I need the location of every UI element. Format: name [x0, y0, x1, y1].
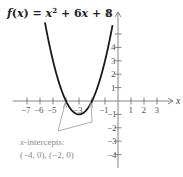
- annotation-label: x-intercepts:: [19, 137, 64, 147]
- y-tick-label: 3: [111, 56, 116, 66]
- graph-title: f(x) = x2 + 6x + 8: [6, 6, 113, 20]
- x-tick-label: 3: [155, 105, 160, 115]
- x-tick-label: −5: [47, 105, 57, 115]
- y-tick-label: −4: [107, 150, 117, 160]
- y-axis-label: y: [106, 6, 112, 17]
- x-tick-label: −6: [34, 105, 44, 115]
- y-tick-label: −1: [107, 109, 117, 119]
- x-tick-label: −7: [21, 105, 31, 115]
- y-tick-label: 1: [111, 83, 116, 93]
- y-tick-label: 2: [111, 69, 116, 79]
- pointer-line-left: [58, 104, 65, 131]
- y-tick-label: −3: [107, 136, 117, 146]
- y-tick-label: 4: [111, 42, 116, 52]
- function-graph: f(x) = x2 + 6x + 8 −7−6−5−3−11234321−1−2…: [0, 0, 183, 177]
- annotation-values: (−4, 0), (−2, 0): [20, 150, 74, 160]
- x-axis-label: x: [175, 95, 181, 106]
- x-tick-label: 1: [129, 105, 134, 115]
- x-tick-label: 2: [142, 105, 147, 115]
- y-tick-label: −2: [107, 123, 117, 133]
